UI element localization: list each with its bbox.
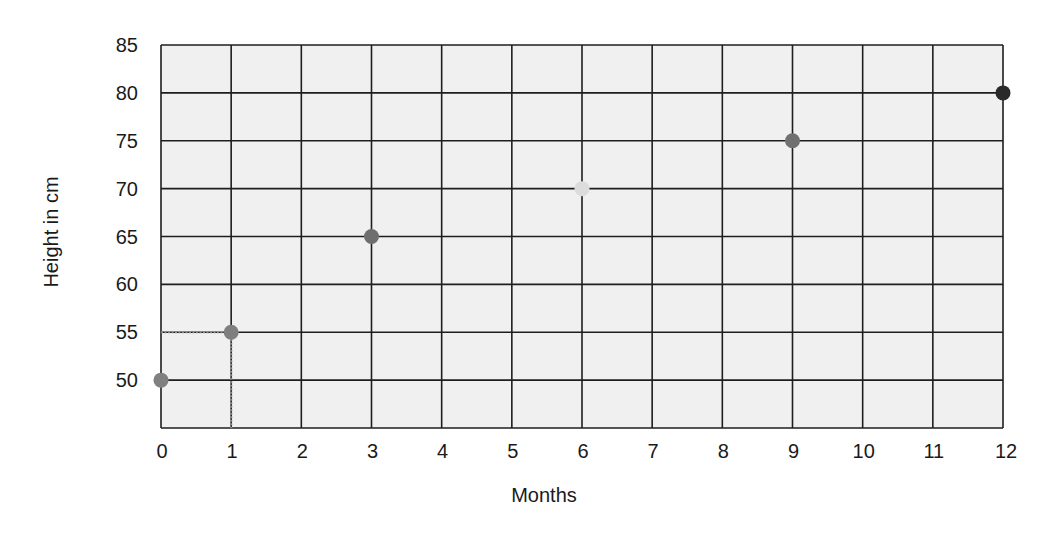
y-tick-label: 70 xyxy=(116,178,138,200)
y-tick-label: 60 xyxy=(116,273,138,295)
x-tick-label: 0 xyxy=(156,440,167,462)
y-tick-label: 80 xyxy=(116,82,138,104)
x-tick-label: 11 xyxy=(923,440,944,462)
y-tick-label: 85 xyxy=(116,34,138,56)
y-tick-label: 50 xyxy=(116,369,138,391)
x-tick-label: 3 xyxy=(367,440,378,462)
x-tick-label: 12 xyxy=(995,440,1017,462)
data-point xyxy=(154,373,169,388)
x-tick-label: 1 xyxy=(227,440,238,462)
data-point xyxy=(575,181,590,196)
data-point xyxy=(996,85,1011,100)
x-tick-label: 4 xyxy=(437,440,448,462)
y-axis-title: Height in cm xyxy=(40,176,62,287)
x-tick-label: 9 xyxy=(788,440,799,462)
x-tick-label: 7 xyxy=(648,440,659,462)
x-tick-label: 5 xyxy=(507,440,518,462)
x-tick-labels: 0123456789101112 xyxy=(156,440,1017,462)
y-tick-label: 65 xyxy=(116,226,138,248)
x-axis-title: Months xyxy=(511,484,577,506)
x-tick-label: 6 xyxy=(577,440,588,462)
y-tick-label: 55 xyxy=(116,321,138,343)
y-tick-label: 75 xyxy=(116,130,138,152)
data-point xyxy=(364,229,379,244)
x-tick-label: 10 xyxy=(853,440,875,462)
data-point xyxy=(224,325,239,340)
y-tick-labels: 5055606570758085 xyxy=(116,34,138,391)
x-tick-label: 2 xyxy=(297,440,308,462)
x-tick-label: 8 xyxy=(718,440,729,462)
chart: 0123456789101112 5055606570758085 Months… xyxy=(0,0,1052,535)
data-point xyxy=(785,133,800,148)
